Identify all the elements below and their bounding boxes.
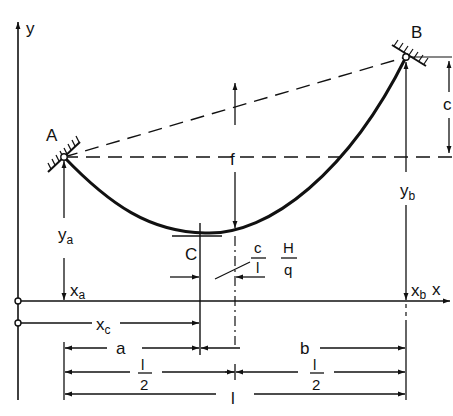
- point-a-label: A: [46, 126, 58, 145]
- frac-c-den: l: [256, 259, 259, 276]
- dim-half-left-den: 2: [140, 376, 148, 393]
- xa-label: xa: [70, 281, 86, 302]
- c-label: c: [443, 95, 452, 114]
- catenary-diagram: y x A: [0, 0, 453, 416]
- low-point-c: C: [172, 223, 222, 355]
- dim-half-right-den: 2: [312, 376, 320, 393]
- frac-c-num: c: [254, 239, 262, 256]
- xc-label: xc: [96, 315, 111, 337]
- dimension-f: f: [230, 83, 235, 345]
- dim-l-label: l: [231, 389, 235, 408]
- dimension-c: c: [443, 61, 452, 153]
- frac-h-den: q: [284, 261, 292, 278]
- dimension-yb: yb xb: [400, 62, 427, 318]
- yb-label: yb: [400, 181, 416, 203]
- point-c-label: C: [185, 245, 197, 264]
- dim-half-right-num: l: [313, 356, 316, 373]
- dim-b-label: b: [300, 339, 309, 358]
- ya-label: ya: [58, 225, 74, 247]
- support-b: B: [392, 23, 428, 66]
- y-axis: y: [18, 19, 35, 400]
- x-axis-label: x: [432, 280, 441, 299]
- point-b-label: B: [411, 23, 422, 42]
- dim-a-label: a: [116, 339, 126, 358]
- bottom-dimensions: a b l 2 l 2 l: [64, 320, 406, 408]
- f-label: f: [230, 150, 235, 169]
- xb-label: xb: [411, 281, 427, 302]
- dim-half-left-num: l: [141, 356, 144, 373]
- origin-marker: [15, 298, 21, 304]
- support-a: A: [46, 126, 80, 172]
- y-axis-label: y: [26, 19, 35, 38]
- dimension-ya: ya xa: [58, 161, 86, 302]
- dimension-xc: xc: [15, 315, 199, 337]
- frac-h-num: H: [283, 239, 294, 256]
